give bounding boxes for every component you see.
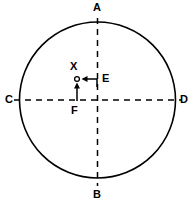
label-d: D — [180, 94, 188, 105]
circle-diagram: A B C D X E F — [0, 0, 195, 209]
label-e: E — [102, 73, 109, 84]
label-x: X — [70, 61, 77, 72]
label-c: C — [5, 94, 13, 105]
arrow-e-head-icon — [82, 76, 88, 82]
label-b: B — [93, 189, 101, 200]
label-a: A — [93, 2, 101, 13]
label-f: F — [71, 105, 78, 116]
diagram-canvas — [0, 0, 195, 209]
point-x-marker-icon — [75, 77, 80, 82]
arrow-f-head-icon — [74, 83, 80, 89]
